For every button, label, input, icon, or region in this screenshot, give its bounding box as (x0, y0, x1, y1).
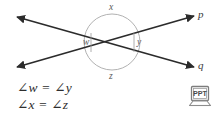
equation-w-y: ∠w = ∠y (17, 79, 72, 96)
line-label-q: q (198, 60, 204, 71)
geometry-figure: p q x w y z ∠w = ∠y ∠x = ∠z PPT (0, 0, 220, 117)
angle-circle (84, 14, 140, 70)
angle-label-z: z (109, 72, 113, 82)
ppt-laptop-icon[interactable]: PPT (188, 85, 212, 107)
angle-label-y: y (137, 38, 141, 48)
equation-x-z: ∠x = ∠z (17, 96, 72, 113)
laptop-icon: PPT (188, 85, 212, 107)
ppt-label: PPT (193, 89, 208, 98)
angle-label-w: w (83, 38, 89, 48)
angle-label-x: x (109, 3, 113, 13)
equation-block: ∠w = ∠y ∠x = ∠z (17, 79, 72, 113)
line-label-p: p (198, 9, 204, 20)
